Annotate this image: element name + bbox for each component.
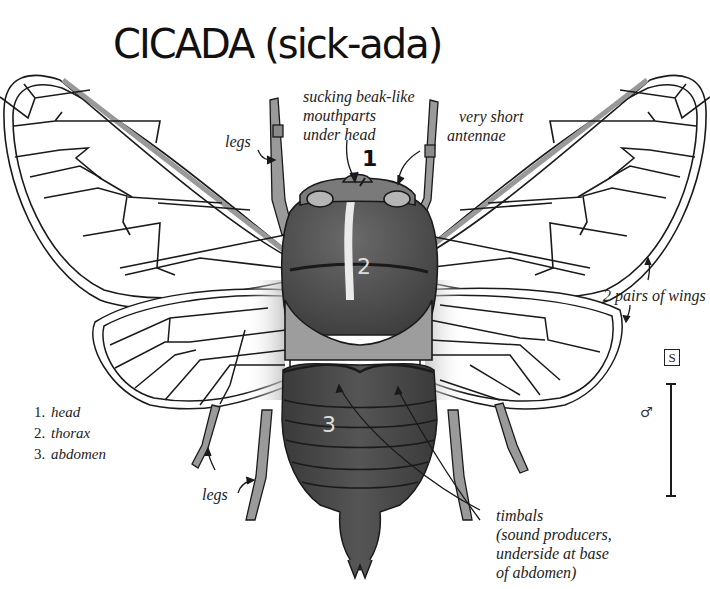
page-title: CICADA (sick-ada) [113, 24, 441, 64]
abdomen [282, 364, 437, 578]
head-number: 1 [362, 148, 377, 170]
antennae-label: very short antennae [459, 107, 523, 145]
timbals-label-line-4: of abdomen) [496, 563, 612, 582]
mouthparts-label-line-1: sucking beak-like [303, 87, 415, 106]
wings-label: 2 pairs of wings [603, 286, 706, 305]
legend-item-thorax: 2.thorax [34, 423, 106, 444]
timbals-label: timbals (sound producers, underside at b… [496, 506, 612, 582]
left-forewing [0, 75, 290, 308]
legs-label-lower: legs [202, 485, 228, 504]
scale-bar [666, 384, 676, 496]
mouthparts-label: sucking beak-like mouthparts under head [303, 87, 415, 144]
abdomen-number: 3 [322, 414, 336, 436]
body-part-legend: 1.head 2.thorax 3.abdomen [34, 402, 106, 465]
cicada-diagram: CICADA (sick-ada) sucking beak-like mout… [0, 0, 710, 589]
antennae-label-line-1: very short [459, 107, 523, 126]
mouthparts-label-line-2: mouthparts [303, 106, 415, 125]
legs-label-upper: legs [225, 132, 251, 151]
legend-item-abdomen: 3.abdomen [34, 444, 106, 465]
timbals-label-line-2: (sound producers, [496, 525, 612, 544]
size-code-box: S [664, 349, 680, 366]
male-symbol-icon: ♂ [640, 404, 653, 420]
thorax-number: 2 [357, 256, 371, 278]
mouthparts-label-line-3: under head [303, 125, 415, 144]
timbals-label-line-3: underside at base [496, 544, 612, 563]
legend-item-head: 1.head [34, 402, 106, 423]
right-hindwing [420, 280, 622, 409]
antennae-label-line-2: antennae [447, 126, 523, 145]
timbals-label-line-1: timbals [496, 506, 612, 525]
